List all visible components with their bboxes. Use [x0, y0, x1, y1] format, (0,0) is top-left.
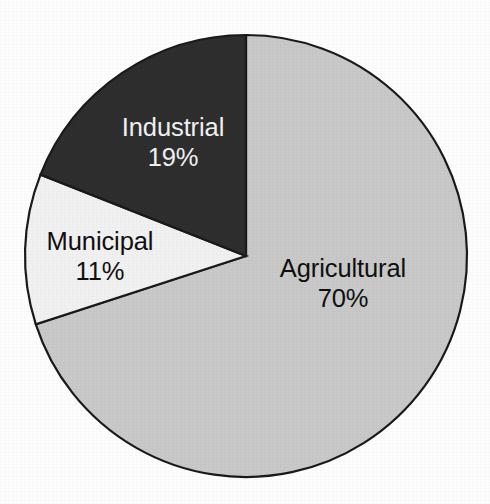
slice-label-municipal-value: 11% [76, 257, 125, 285]
slice-label-industrial-name: Industrial [122, 113, 224, 141]
slice-label-agricultural-name: Agricultural [280, 254, 406, 282]
slice-label-municipal-name: Municipal [47, 227, 154, 255]
pie-chart-svg: Agricultural 70% Municipal 11% Industria… [0, 0, 490, 504]
pie-chart: Agricultural 70% Municipal 11% Industria… [0, 0, 490, 504]
slice-label-industrial-value: 19% [148, 143, 199, 171]
slice-label-agricultural-value: 70% [318, 284, 369, 312]
